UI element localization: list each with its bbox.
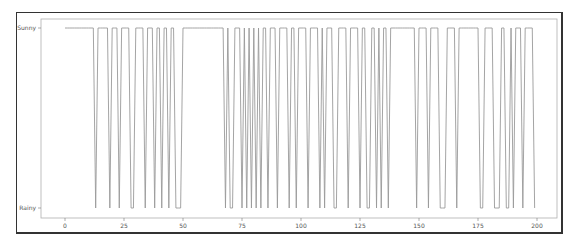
x-tick-label: 0 bbox=[63, 222, 67, 229]
x-tick-label: 150 bbox=[413, 222, 425, 229]
y-tick-label-sunny: Sunny bbox=[17, 24, 36, 32]
weather-line-chart: Sunny Rainy 0255075100125150175200 bbox=[0, 0, 585, 247]
y-axis: Sunny Rainy bbox=[17, 24, 41, 212]
x-tick-label: 50 bbox=[179, 222, 187, 229]
y-tick-label-rainy: Rainy bbox=[19, 204, 36, 212]
x-tick-label: 75 bbox=[238, 222, 246, 229]
x-tick-label: 25 bbox=[120, 222, 128, 229]
weather-series-line bbox=[65, 28, 535, 208]
x-tick-label: 175 bbox=[472, 222, 484, 229]
x-axis: 0255075100125150175200 bbox=[63, 218, 543, 229]
x-tick-label: 200 bbox=[531, 222, 543, 229]
x-tick-label: 100 bbox=[295, 222, 307, 229]
x-tick-label: 125 bbox=[354, 222, 366, 229]
